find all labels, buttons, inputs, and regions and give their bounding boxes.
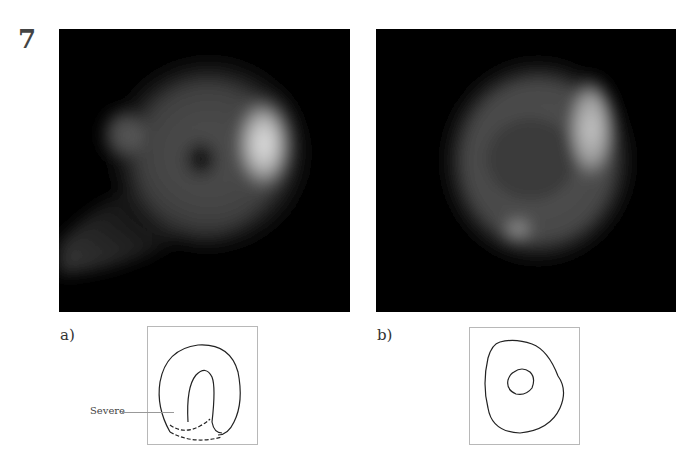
panel-label-b: b)	[377, 326, 392, 344]
diagram-b	[469, 327, 580, 445]
scan-a-graphic	[59, 29, 350, 312]
diagram-b-outline	[470, 328, 579, 444]
diagram-a	[147, 326, 258, 445]
annotation-leader-line	[122, 412, 174, 413]
scan-b-graphic	[376, 29, 676, 312]
panel-label-a: a)	[60, 326, 75, 344]
scan-image-a	[59, 29, 350, 312]
diagram-a-outline	[148, 327, 257, 444]
severe-annotation: Severe	[90, 405, 125, 416]
scan-image-b	[376, 29, 676, 312]
figure-number: 7	[18, 24, 36, 54]
